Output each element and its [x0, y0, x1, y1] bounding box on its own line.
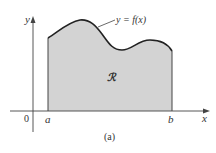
curve-label-leader — [98, 20, 115, 27]
shaded-region — [48, 20, 172, 111]
y-axis-arrow-icon — [31, 16, 36, 23]
interval-left-label: a — [45, 113, 51, 125]
area-under-curve-figure: y x 0 a b y = f(x) ℛ (a) — [0, 0, 216, 153]
figure-caption: (a) — [104, 131, 115, 143]
y-axis-label: y — [24, 13, 30, 25]
curve-label: y = f(x) — [115, 14, 147, 26]
origin-label: 0 — [24, 113, 29, 124]
interval-right-label: b — [168, 113, 174, 125]
region-label: ℛ — [107, 71, 117, 83]
x-axis-label: x — [201, 112, 207, 124]
